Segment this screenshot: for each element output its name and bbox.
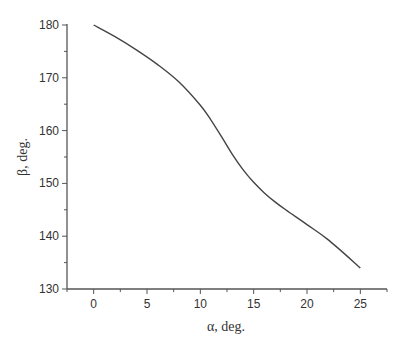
x-tick-label: 5 [144, 297, 151, 311]
data-line [94, 25, 361, 268]
y-tick-label: 180 [39, 18, 59, 32]
x-tick-label: 15 [247, 297, 261, 311]
y-axis-title: β, deg. [15, 138, 30, 176]
line-chart: 0510152025 130140150160170180 α, deg. β,… [0, 0, 405, 346]
x-axis-title: α, deg. [207, 319, 245, 334]
y-tick-label: 170 [39, 71, 59, 85]
y-tick-label: 130 [39, 282, 59, 296]
plot-area [94, 25, 361, 268]
y-axis: 130140150160170180 [39, 18, 67, 296]
y-tick-label: 160 [39, 124, 59, 138]
x-tick-label: 25 [354, 297, 368, 311]
x-axis: 0510152025 [67, 289, 387, 311]
x-tick-label: 10 [194, 297, 208, 311]
x-tick-label: 20 [300, 297, 314, 311]
y-tick-label: 140 [39, 229, 59, 243]
y-tick-label: 150 [39, 176, 59, 190]
x-tick-label: 0 [90, 297, 97, 311]
